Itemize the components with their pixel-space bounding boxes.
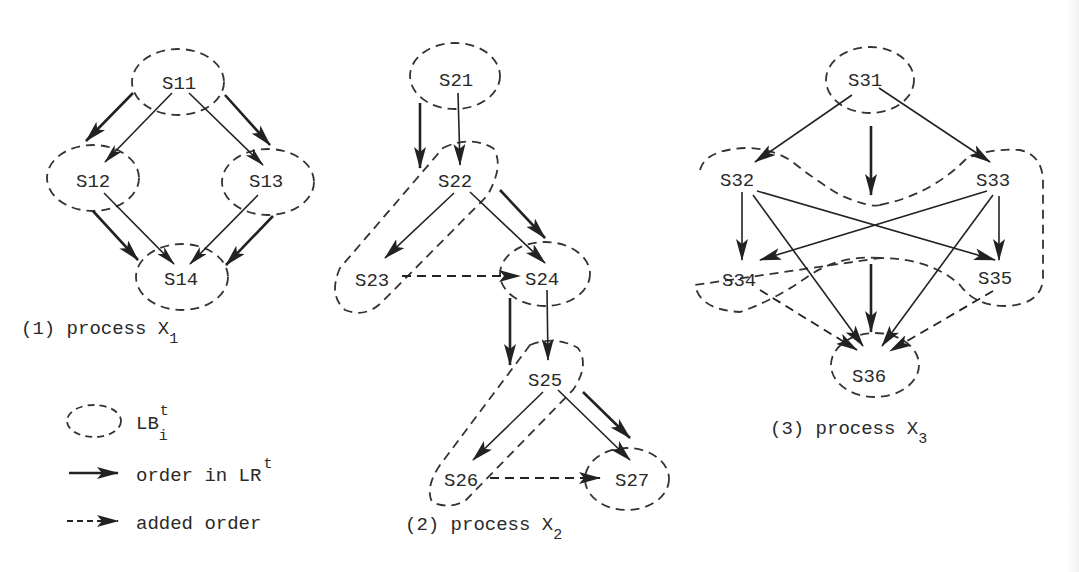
- process-x1: S11 S12 S13 S14 (1) process X1: [21, 49, 314, 348]
- lb-order-s13-s14: [226, 216, 273, 265]
- legend: LBti order in LRt added order: [67, 403, 272, 535]
- edge-s21-s22: [458, 93, 460, 165]
- node-s26: S26: [444, 470, 478, 492]
- legend-lb-label: LBti: [136, 403, 169, 445]
- lb-boundary-s33-s35: [880, 150, 1043, 306]
- node-s24: S24: [525, 269, 559, 291]
- node-s27: S27: [615, 470, 649, 492]
- node-s11: S11: [162, 73, 196, 95]
- process-x3: S31 S32 S33 S34 S35 S36 (3) process X3: [695, 47, 1043, 448]
- node-s31: S31: [848, 70, 882, 92]
- node-s35: S35: [978, 268, 1012, 290]
- legend-added-label: added order: [136, 513, 261, 535]
- edge-s11-s13: [189, 93, 263, 165]
- added-edge-s34-s36: [760, 290, 857, 350]
- edge-s25-s27: [558, 390, 630, 460]
- node-s14: S14: [164, 269, 198, 291]
- legend-lb-ellipse-icon: [67, 405, 121, 437]
- lb-order-s11-s13: [225, 95, 270, 145]
- figure: S11 S12 S13 S14 (1) process X1 LBti orde…: [0, 0, 1079, 572]
- caption-process-x2: (2) process X2: [405, 514, 562, 544]
- process-x2: S21 S22 S23 S24 S25 S26 S27 (2) process …: [335, 43, 669, 544]
- edge-s24-s25: [547, 290, 548, 360]
- lb-order-s12-s14: [93, 211, 138, 260]
- node-s23: S23: [355, 270, 389, 292]
- caption-process-x1: (1) process X1: [21, 318, 178, 348]
- edge-s25-s26: [473, 392, 543, 460]
- node-s12: S12: [76, 171, 110, 193]
- caption-process-x3: (3) process X3: [770, 418, 927, 448]
- process-diagrams: S11 S12 S13 S14 (1) process X1 LBti orde…: [0, 0, 1079, 572]
- node-s25: S25: [528, 370, 562, 392]
- scan-edge-shading: [1067, 0, 1079, 572]
- lb-order-s22-s24: [500, 190, 545, 238]
- edge-s13-s14: [190, 195, 258, 264]
- node-s36: S36: [852, 366, 886, 388]
- node-s34: S34: [722, 270, 756, 292]
- lb-order-s11-s12: [86, 93, 133, 141]
- node-s21: S21: [439, 70, 473, 92]
- node-s22: S22: [438, 171, 472, 193]
- edge-s11-s12: [105, 93, 172, 162]
- lb-order-s25-s27: [583, 392, 630, 438]
- legend-order-label: order in LRt: [136, 456, 272, 487]
- node-s13: S13: [249, 171, 283, 193]
- node-s32: S32: [720, 170, 754, 192]
- edge-s31-s32: [755, 95, 852, 162]
- edge-s31-s33: [879, 88, 990, 162]
- edge-s12-s14: [104, 193, 174, 264]
- node-s33: S33: [976, 170, 1010, 192]
